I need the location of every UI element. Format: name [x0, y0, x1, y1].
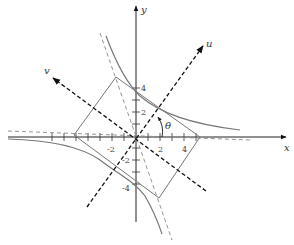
- x-axis-label: x: [284, 142, 290, 153]
- hyperbola-lower-branch: [8, 139, 162, 234]
- y-tick-label: 2: [141, 108, 146, 117]
- asymptote-shallow: [8, 131, 250, 140]
- x-tick-label: 4: [182, 145, 187, 154]
- x-tick-label: 2: [158, 145, 163, 154]
- x-tick-label: -2: [107, 145, 115, 154]
- y-tick-label: -4: [122, 184, 130, 193]
- hyperbola-upper-branch: [106, 36, 240, 130]
- rotated-hyperbola-diagram: -2 2 4 4 2 -2 -4 x y u v θ: [0, 0, 294, 245]
- v-axis-label: v: [44, 65, 50, 76]
- theta-label: θ: [165, 120, 171, 131]
- y-axis-label: y: [140, 4, 147, 15]
- u-axis-label: u: [206, 38, 212, 49]
- y-tick-label: 4: [141, 84, 146, 93]
